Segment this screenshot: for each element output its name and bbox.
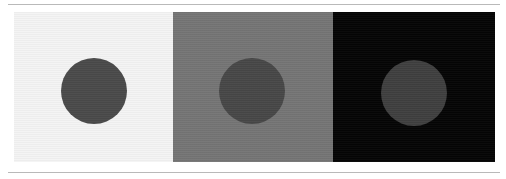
disc-on-mid-gray	[219, 58, 285, 124]
bottom-rule	[8, 172, 500, 173]
panel-black	[333, 12, 495, 162]
disc-on-light	[61, 58, 127, 124]
top-rule	[8, 4, 500, 5]
figure-root	[0, 0, 506, 179]
panel-mid-gray	[173, 12, 333, 162]
disc-on-black	[381, 60, 447, 126]
panel-light	[14, 12, 173, 162]
panel-strip	[14, 12, 495, 162]
